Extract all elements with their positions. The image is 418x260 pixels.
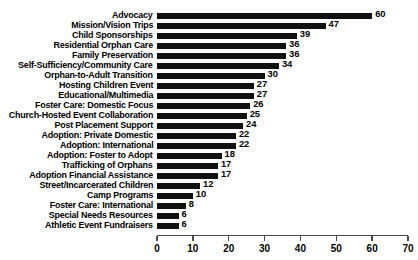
bar-wrap <box>157 63 279 69</box>
bar <box>157 213 179 219</box>
x-axis-tick-label: 60 <box>367 243 378 255</box>
bar-wrap <box>157 93 254 99</box>
bar <box>157 73 265 79</box>
x-axis-line <box>157 235 408 236</box>
bar-value-label: 6 <box>182 218 187 230</box>
bar-wrap <box>157 83 254 89</box>
bar <box>157 13 372 19</box>
x-axis-tick <box>156 236 157 241</box>
bar-value-label: 47 <box>329 18 339 30</box>
bar <box>157 193 193 199</box>
bar <box>157 33 297 39</box>
bar-wrap <box>157 193 193 199</box>
bar <box>157 163 218 169</box>
bar-value-label: 34 <box>282 58 292 70</box>
bar-wrap <box>157 153 222 159</box>
bar <box>157 223 179 229</box>
bar-wrap <box>157 183 200 189</box>
bar-rows: Advocacy60Mission/Vision Trips47Child Sp… <box>0 11 418 231</box>
bar-chart: Advocacy60Mission/Vision Trips47Child Sp… <box>0 0 418 260</box>
bar-value-label: 60 <box>375 8 385 20</box>
bar-wrap <box>157 223 179 229</box>
bar-wrap <box>157 133 236 139</box>
x-axis-tick-label: 10 <box>187 243 198 255</box>
bar <box>157 113 247 119</box>
bar <box>157 133 236 139</box>
bar-value-label: 39 <box>300 28 310 40</box>
x-axis-tick <box>407 236 408 241</box>
bar <box>157 183 200 189</box>
bar-wrap <box>157 113 247 119</box>
bar-row: Mission/Vision Trips47 <box>0 21 418 31</box>
x-axis-tick-label: 40 <box>295 243 306 255</box>
bar-category-label: Athletic Event Fundraisers <box>45 220 153 230</box>
bar <box>157 43 286 49</box>
bar <box>157 103 250 109</box>
bar-wrap <box>157 43 286 49</box>
bar <box>157 93 254 99</box>
bar-row: Advocacy60 <box>0 11 418 21</box>
bar-row: Residential Orphan Care36 <box>0 41 418 51</box>
x-axis-tick-label: 70 <box>402 243 413 255</box>
bar-value-label: 10 <box>196 188 206 200</box>
bar <box>157 123 243 129</box>
x-axis-tick-label: 30 <box>259 243 270 255</box>
x-axis-tick <box>192 236 193 241</box>
bar <box>157 53 286 59</box>
bar-wrap <box>157 53 286 59</box>
x-axis-tick <box>336 236 337 241</box>
bar <box>157 153 222 159</box>
bar-value-label: 22 <box>239 138 249 150</box>
bar-wrap <box>157 103 250 109</box>
x-axis-tick <box>264 236 265 241</box>
bar-wrap <box>157 33 297 39</box>
x-axis-tick <box>228 236 229 241</box>
bar-value-label: 8 <box>189 198 194 210</box>
bar-wrap <box>157 123 243 129</box>
bar-wrap <box>157 73 265 79</box>
bar <box>157 63 279 69</box>
x-axis-tick-label: 20 <box>223 243 234 255</box>
bar-wrap <box>157 13 372 19</box>
bar-wrap <box>157 213 179 219</box>
bar-wrap <box>157 163 218 169</box>
x-axis-tick-label: 50 <box>331 243 342 255</box>
bar <box>157 83 254 89</box>
bar-value-label: 30 <box>268 68 278 80</box>
bar-value-label: 17 <box>221 168 231 180</box>
x-axis-tick <box>371 236 372 241</box>
x-axis-tick <box>300 236 301 241</box>
x-axis-tick-label: 0 <box>154 243 160 255</box>
bar-row: Athletic Event Fundraisers6 <box>0 221 418 231</box>
bar-row: Street/Incarcerated Children12 <box>0 181 418 191</box>
